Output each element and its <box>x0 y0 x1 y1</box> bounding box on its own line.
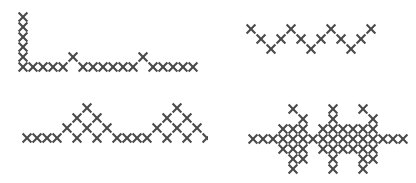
cross-stitch-x-icon <box>339 135 348 144</box>
cross-stitch-x-icon <box>269 135 278 144</box>
cross-stitch-x-icon <box>289 155 298 164</box>
cross-stitch-x-icon <box>329 105 338 114</box>
cross-stitch-x-icon <box>119 63 128 72</box>
cross-stitch-x-icon <box>329 115 338 124</box>
cross-stitch-x-icon <box>289 135 298 144</box>
cross-stitch-x-icon <box>129 63 138 72</box>
cross-stitch-x-icon <box>33 134 42 143</box>
cross-stitch-x-icon <box>287 25 296 34</box>
pattern-top-left <box>0 0 208 92</box>
cross-stitch-x-icon <box>379 135 388 144</box>
cross-stitch-x-icon <box>399 135 408 144</box>
stitch-group-diamond-peak-border <box>23 104 208 143</box>
cross-stitch-x-icon <box>23 134 32 143</box>
cross-stitch-x-icon <box>183 114 192 123</box>
cross-stitch-x-icon <box>389 135 398 144</box>
cross-stitch-x-icon <box>19 63 28 72</box>
cross-stitch-x-icon <box>289 145 298 154</box>
stitch-group-cross-motif-border <box>249 105 408 174</box>
cross-stitch-x-icon <box>279 125 288 134</box>
cross-stitch-x-icon <box>79 63 88 72</box>
stitch-group-corner-border-with-peaks <box>19 13 198 72</box>
cross-stitch-x-icon <box>19 53 28 62</box>
pattern-bottom-left <box>0 92 208 183</box>
cross-stitch-x-icon <box>277 35 286 44</box>
cross-stitch-x-icon <box>173 124 182 133</box>
cross-stitch-x-icon <box>309 135 318 144</box>
cross-stitch-x-icon <box>359 165 368 174</box>
cross-stitch-x-icon <box>83 124 92 133</box>
cross-stitch-x-icon <box>299 155 308 164</box>
cross-stitch-x-icon <box>259 135 268 144</box>
cross-stitch-x-icon <box>369 125 378 134</box>
cross-stitch-x-icon <box>339 125 348 134</box>
cross-stitch-x-icon <box>183 134 192 143</box>
pattern-top-right <box>208 0 416 92</box>
cross-stitch-x-icon <box>369 115 378 124</box>
cross-stitch-x-icon <box>193 124 202 133</box>
cross-stitch-x-icon <box>299 145 308 154</box>
cross-stitch-x-icon <box>159 63 168 72</box>
pattern-bottom-left-svg <box>0 92 208 183</box>
cross-stitch-sampler-canvas <box>0 0 416 183</box>
cross-stitch-x-icon <box>319 145 328 154</box>
cross-stitch-x-icon <box>133 134 142 143</box>
cross-stitch-x-icon <box>49 63 58 72</box>
cross-stitch-x-icon <box>99 63 108 72</box>
cross-stitch-x-icon <box>73 114 82 123</box>
cross-stitch-x-icon <box>113 134 122 143</box>
pattern-top-left-svg <box>0 0 208 92</box>
cross-stitch-x-icon <box>89 63 98 72</box>
cross-stitch-x-icon <box>249 135 258 144</box>
cross-stitch-x-icon <box>93 134 102 143</box>
cross-stitch-x-icon <box>73 134 82 143</box>
cross-stitch-x-icon <box>173 104 182 113</box>
cross-stitch-x-icon <box>339 145 348 154</box>
cross-stitch-x-icon <box>39 63 48 72</box>
cross-stitch-x-icon <box>329 125 338 134</box>
cross-stitch-x-icon <box>329 135 338 144</box>
cross-stitch-x-icon <box>369 135 378 144</box>
cross-stitch-x-icon <box>359 135 368 144</box>
cross-stitch-x-icon <box>267 45 276 54</box>
cross-stitch-x-icon <box>53 134 62 143</box>
cross-stitch-x-icon <box>319 125 328 134</box>
cross-stitch-x-icon <box>123 134 132 143</box>
cross-stitch-x-icon <box>299 125 308 134</box>
cross-stitch-x-icon <box>179 63 188 72</box>
cross-stitch-x-icon <box>103 124 112 133</box>
cross-stitch-x-icon <box>299 135 308 144</box>
cross-stitch-x-icon <box>169 63 178 72</box>
cross-stitch-x-icon <box>279 145 288 154</box>
cross-stitch-x-icon <box>143 134 152 143</box>
cross-stitch-x-icon <box>297 35 306 44</box>
cross-stitch-x-icon <box>317 35 326 44</box>
cross-stitch-x-icon <box>289 165 298 174</box>
cross-stitch-x-icon <box>19 43 28 52</box>
cross-stitch-x-icon <box>163 134 172 143</box>
pattern-bottom-right-svg <box>208 92 416 183</box>
cross-stitch-x-icon <box>359 145 368 154</box>
cross-stitch-x-icon <box>329 145 338 154</box>
cross-stitch-x-icon <box>327 25 336 34</box>
cross-stitch-x-icon <box>347 45 356 54</box>
cross-stitch-x-icon <box>149 63 158 72</box>
cross-stitch-x-icon <box>367 25 376 34</box>
cross-stitch-x-icon <box>289 125 298 134</box>
cross-stitch-x-icon <box>93 114 102 123</box>
stitch-group-open-zigzag-border <box>247 25 376 54</box>
cross-stitch-x-icon <box>83 104 92 113</box>
cross-stitch-x-icon <box>359 155 368 164</box>
cross-stitch-x-icon <box>19 23 28 32</box>
cross-stitch-x-icon <box>69 53 78 62</box>
cross-stitch-x-icon <box>307 45 316 54</box>
cross-stitch-x-icon <box>359 125 368 134</box>
cross-stitch-x-icon <box>359 105 368 114</box>
cross-stitch-x-icon <box>329 165 338 174</box>
cross-stitch-x-icon <box>19 33 28 42</box>
cross-stitch-x-icon <box>319 135 328 144</box>
cross-stitch-x-icon <box>289 105 298 114</box>
cross-stitch-x-icon <box>59 63 68 72</box>
cross-stitch-x-icon <box>337 35 346 44</box>
cross-stitch-x-icon <box>43 134 52 143</box>
